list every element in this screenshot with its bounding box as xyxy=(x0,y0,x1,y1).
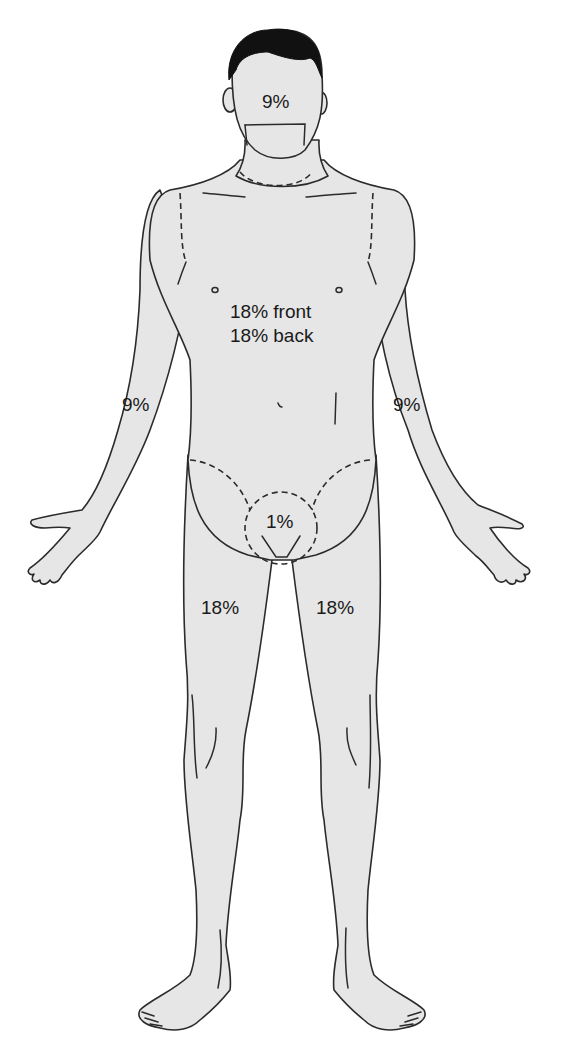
perineum-percentage-label: 1% xyxy=(266,511,293,533)
left-leg-percentage-label: 18% xyxy=(201,597,239,619)
trunk-back-label: 18% back xyxy=(230,325,313,347)
head-percentage-label: 9% xyxy=(262,91,289,113)
trunk-front-label: 18% front xyxy=(230,301,311,323)
right-arm-percentage-label: 9% xyxy=(393,394,420,416)
left-arm-percentage-label: 9% xyxy=(122,394,149,416)
right-leg-percentage-label: 18% xyxy=(316,597,354,619)
abdomen-line xyxy=(335,393,336,424)
